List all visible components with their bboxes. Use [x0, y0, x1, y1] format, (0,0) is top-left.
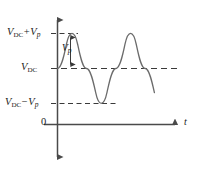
waveform-figure: VDC+Vp VDC VDC−Vp Vp 0 t: [0, 0, 198, 177]
waveform-plot: [0, 0, 198, 177]
